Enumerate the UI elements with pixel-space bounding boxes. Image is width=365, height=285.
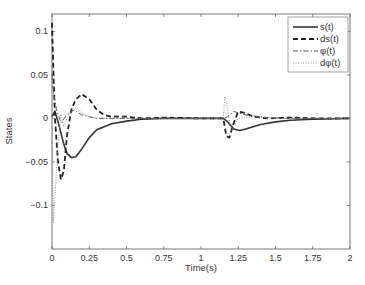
x-axis-label: Time(s) — [185, 262, 217, 273]
x-tick-label: 1.75 — [304, 253, 322, 263]
x-tick-label: 0.25 — [80, 253, 98, 263]
legend-label-dphi: dφ(t) — [320, 57, 340, 68]
x-tick-label: 1.25 — [229, 253, 247, 263]
legend-label-s: s(t) — [320, 21, 334, 32]
legend-label-phi: φ(t) — [320, 45, 335, 56]
y-tick-label: 0.1 — [35, 26, 48, 36]
y-tick-label: 0.05 — [30, 70, 48, 80]
x-tick-label: 0.5 — [120, 253, 133, 263]
x-tick-label: 2 — [347, 253, 352, 263]
x-tick-label: 1.5 — [269, 253, 282, 263]
x-tick-label: 0 — [49, 253, 54, 263]
line-chart: 00.250.50.7511.251.51.752 0.10.050−0.05−… — [0, 0, 365, 285]
legend-label-ds: ds(t) — [320, 33, 339, 44]
legend: s(t) ds(t) φ(t) dφ(t) — [288, 17, 348, 72]
x-tick-label: 0.75 — [155, 253, 173, 263]
y-axis-label: States — [3, 117, 14, 144]
y-tick-label: 0 — [43, 113, 48, 123]
y-tick-label: −0.05 — [25, 157, 48, 167]
y-tick-label: −0.1 — [30, 200, 48, 210]
